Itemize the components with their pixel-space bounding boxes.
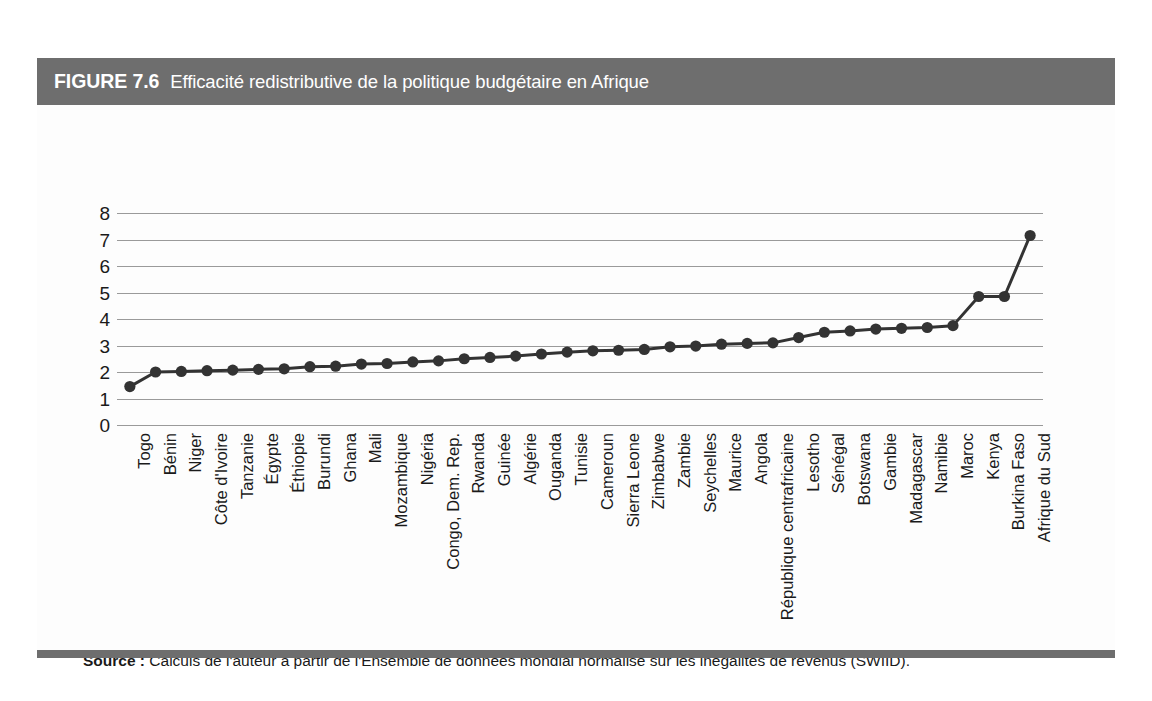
data-point-marker: [124, 381, 135, 392]
x-axis-tick-label: Zimbabwe: [650, 433, 667, 509]
y-axis: 012345678: [84, 213, 110, 425]
figure-header-bar: FIGURE 7.6 Efficacité redistributive de …: [37, 58, 1115, 105]
x-axis-tick-label: Algérie: [522, 433, 539, 484]
x-axis-tick-label: Sierra Leone: [625, 433, 642, 527]
x-axis-tick-label: Namibie: [933, 433, 950, 494]
y-axis-tick: 8: [99, 204, 110, 223]
data-point-marker: [150, 366, 161, 377]
data-point-marker: [279, 363, 290, 374]
x-axis-tick-label: Mali: [367, 433, 384, 463]
data-point-marker: [793, 332, 804, 343]
x-axis-tick-label: Éthiopie: [290, 433, 307, 493]
data-point-marker: [922, 322, 933, 333]
x-axis-tick-label: Gambie: [882, 433, 899, 491]
data-point-marker: [690, 340, 701, 351]
data-point-marker: [587, 345, 598, 356]
data-point-marker: [947, 320, 958, 331]
x-axis-tick-label: Congo, Dem. Rep.: [445, 433, 462, 570]
x-axis-tick-label: Ouganda: [547, 433, 564, 501]
x-axis-tick-label: Maurice: [727, 433, 744, 492]
plot-area: 012345678 TogoBéninNigerCôte d'IvoireTan…: [37, 105, 1115, 658]
data-point-marker: [304, 361, 315, 372]
x-axis-tick-label: Rwanda: [470, 433, 487, 494]
data-point-marker: [176, 366, 187, 377]
x-axis-tick-label: Angola: [753, 433, 770, 484]
x-axis-tick-label: République centrafricaine: [779, 433, 796, 620]
y-axis-tick: 1: [99, 389, 110, 408]
data-point-marker: [227, 365, 238, 376]
y-axis-tick: 4: [99, 310, 110, 329]
figure-number: FIGURE 7.6: [54, 70, 159, 93]
x-axis-tick-label: Seychelles: [702, 433, 719, 513]
data-point-marker: [381, 358, 392, 369]
data-point-marker: [1025, 230, 1036, 241]
y-axis-tick: 3: [99, 336, 110, 355]
series-polyline: [130, 236, 1030, 387]
data-point-marker: [999, 291, 1010, 302]
x-axis-tick-label: Togo: [136, 433, 153, 469]
data-point-marker: [819, 327, 830, 338]
data-point-marker: [973, 291, 984, 302]
data-point-marker: [433, 355, 444, 366]
data-point-marker: [613, 345, 624, 356]
data-point-marker: [407, 356, 418, 367]
figure-page: FIGURE 7.6 Efficacité redistributive de …: [0, 0, 1152, 701]
data-point-marker: [484, 352, 495, 363]
data-point-marker: [459, 353, 470, 364]
x-axis-tick-label: Ghana: [342, 433, 359, 483]
figure-bottom-rule: [37, 650, 1115, 658]
x-axis-tick-label: Maroc: [959, 433, 976, 479]
x-axis-labels: TogoBéninNigerCôte d'IvoireTanzanieÉgypt…: [117, 433, 1043, 643]
x-axis-tick-label: Burundi: [316, 433, 333, 490]
gridline: [117, 425, 1043, 426]
data-point-marker: [536, 348, 547, 359]
data-point-marker: [844, 325, 855, 336]
x-axis-tick-label: Tanzanie: [239, 433, 256, 499]
x-axis-tick-label: Zambie: [676, 433, 693, 488]
figure-card: FIGURE 7.6 Efficacité redistributive de …: [37, 58, 1115, 658]
x-axis-tick-label: Mozambique: [393, 433, 410, 527]
data-point-marker: [253, 364, 264, 375]
data-point-marker: [510, 351, 521, 362]
x-axis-tick-label: Afrique du Sud: [1036, 433, 1053, 542]
data-point-marker: [201, 365, 212, 376]
x-axis-tick-label: Bénin: [162, 433, 179, 475]
x-axis-tick-label: Nigéria: [419, 433, 436, 485]
x-axis-tick-label: Burkina Faso: [1010, 433, 1027, 530]
data-point-marker: [356, 358, 367, 369]
data-point-marker: [664, 341, 675, 352]
data-point-marker: [716, 339, 727, 350]
data-series-line: [117, 213, 1043, 425]
data-point-marker: [870, 323, 881, 334]
x-axis-tick-label: Tunisie: [573, 433, 590, 486]
y-axis-tick: 5: [99, 283, 110, 302]
x-axis-tick-label: Kenya: [985, 433, 1002, 480]
figure-title: Efficacité redistributive de la politiqu…: [170, 71, 649, 93]
x-axis-tick-label: Niger: [187, 433, 204, 472]
x-axis-tick-label: Lesotho: [805, 433, 822, 492]
y-axis-tick: 2: [99, 363, 110, 382]
x-axis-tick-label: Guinée: [496, 433, 513, 486]
data-point-marker: [767, 337, 778, 348]
x-axis-tick-label: Madagascar: [908, 433, 925, 524]
x-axis-tick-label: Cameroun: [599, 433, 616, 510]
x-axis-tick-label: Côte d'Ivoire: [213, 433, 230, 525]
data-point-marker: [742, 338, 753, 349]
y-axis-tick: 0: [99, 416, 110, 435]
y-axis-tick: 6: [99, 257, 110, 276]
data-point-marker: [639, 344, 650, 355]
data-point-marker: [562, 347, 573, 358]
y-axis-tick: 7: [99, 230, 110, 249]
data-point-marker: [896, 323, 907, 334]
x-axis-tick-label: Sénégal: [830, 433, 847, 494]
data-point-marker: [330, 361, 341, 372]
x-axis-tick-label: Égypte: [264, 433, 281, 484]
x-axis-tick-label: Botswana: [856, 433, 873, 505]
